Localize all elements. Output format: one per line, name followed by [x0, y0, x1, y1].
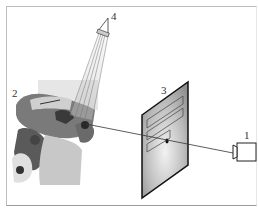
camera-icon	[233, 143, 256, 161]
diagram-canvas	[0, 0, 258, 212]
label-1: 1	[244, 130, 250, 141]
label-3: 3	[161, 85, 167, 96]
label-4: 4	[111, 11, 117, 22]
projector-beams	[70, 33, 108, 120]
label-2: 2	[12, 88, 18, 99]
image-plane	[142, 82, 188, 198]
